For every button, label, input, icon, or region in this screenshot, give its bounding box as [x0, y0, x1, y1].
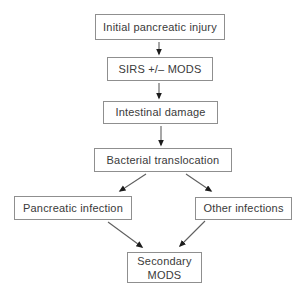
- node-secondary-mods: Secondary MODS: [127, 252, 202, 283]
- node-initial-pancreatic-injury: Initial pancreatic injury: [95, 14, 225, 40]
- node-label: SIRS +/– MODS: [116, 63, 205, 76]
- node-label: Initial pancreatic injury: [100, 21, 220, 34]
- node-label: Secondary MODS: [128, 254, 201, 282]
- node-label: Pancreatic infection: [20, 202, 126, 215]
- arrow-bacterial-to-pancreatic: [120, 174, 146, 191]
- node-intestinal-damage: Intestinal damage: [103, 101, 218, 124]
- arrow-other-to-secondary: [180, 221, 205, 246]
- node-label: Intestinal damage: [112, 106, 208, 119]
- node-other-infections: Other infections: [195, 197, 292, 220]
- node-pancreatic-infection: Pancreatic infection: [14, 196, 132, 220]
- arrow-bacterial-to-other: [186, 174, 211, 191]
- flowchart-canvas: Initial pancreatic injury SIRS +/– MODS …: [0, 0, 306, 296]
- node-bacterial-translocation: Bacterial translocation: [94, 148, 232, 172]
- arrow-pancreatic-to-secondary: [108, 222, 142, 247]
- node-sirs-mods: SIRS +/– MODS: [107, 57, 213, 81]
- node-label: Other infections: [200, 202, 286, 215]
- node-label: Bacterial translocation: [104, 154, 223, 167]
